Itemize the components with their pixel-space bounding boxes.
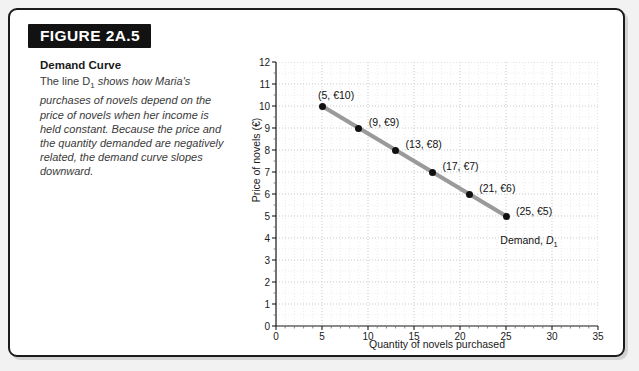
data-point-label: (21, €6): [479, 182, 515, 194]
y-tick-label: 1: [264, 299, 270, 310]
figure-number-label: FIGURE 2A.5: [40, 27, 140, 45]
data-point-marker: [503, 213, 510, 220]
y-tick-label: 12: [259, 57, 270, 68]
x-tick-label: 25: [500, 331, 511, 342]
x-tick-label: 35: [592, 331, 603, 342]
x-tick-label: 30: [546, 331, 557, 342]
y-tick-label: 9: [264, 123, 270, 134]
x-tick-label: 0: [273, 331, 279, 342]
demand-curve-label-subscript: 1: [553, 240, 557, 249]
y-tick-label: 7: [264, 167, 270, 178]
data-point-marker: [355, 125, 362, 132]
demand-curve-label: Demand, D1: [500, 234, 557, 249]
plot-area: 012345678910111205101520253035(5, €10)(9…: [276, 62, 598, 326]
demand-curve-label-text: Demand,: [500, 234, 546, 246]
x-tick-label: 20: [454, 331, 465, 342]
figure-box: FIGURE 2A.5 Demand Curve The line D1 sho…: [8, 8, 625, 357]
y-tick-label: 10: [259, 101, 270, 112]
y-tick-label: 4: [264, 233, 270, 244]
caption-text-part-1: The line D: [40, 75, 90, 87]
data-point-marker: [466, 191, 473, 198]
y-tick-label: 0: [264, 321, 270, 332]
data-point-label: (9, €9): [369, 116, 399, 128]
data-point-label: (13, €8): [406, 138, 442, 150]
figure-number-banner: FIGURE 2A.5: [28, 24, 151, 48]
y-tick-label: 11: [260, 79, 270, 90]
demand-curve-label-variable: D: [546, 234, 554, 246]
data-point-marker: [392, 147, 399, 154]
y-tick-label: 5: [264, 211, 270, 222]
y-tick-label: 3: [264, 255, 270, 266]
y-tick-label: 8: [264, 145, 270, 156]
x-tick-label: 15: [408, 331, 419, 342]
x-tick-label: 10: [362, 331, 373, 342]
x-tick-label: 5: [319, 331, 325, 342]
caption-body: The line D1 shows how Maria's purchases …: [40, 74, 226, 179]
caption-title: Demand Curve: [40, 58, 226, 72]
data-point-marker: [429, 169, 436, 176]
data-point-marker: [319, 103, 326, 110]
caption-block: Demand Curve The line D1 shows how Maria…: [40, 58, 226, 179]
chart-region: Price of novels (€) Quantity of novels p…: [238, 50, 618, 350]
y-tick-label: 2: [264, 277, 270, 288]
data-point-label: (5, €10): [318, 89, 354, 101]
data-point-label: (17, €7): [442, 160, 478, 172]
figure-root: FIGURE 2A.5 Demand Curve The line D1 sho…: [0, 0, 639, 371]
caption-text-part-2: shows how Maria's purchases of novels de…: [40, 75, 223, 177]
y-tick-label: 6: [264, 189, 270, 200]
data-point-label: (25, €5): [516, 205, 552, 217]
chart-axes-and-series: [238, 50, 618, 350]
